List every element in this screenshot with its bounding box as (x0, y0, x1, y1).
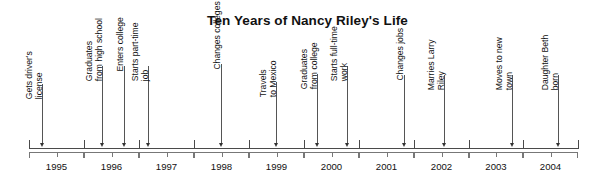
event-label-line2: from high school (94, 18, 104, 81)
event-label: Starts part-timejob (131, 22, 150, 81)
event-label-line2: license (34, 51, 44, 99)
event-label: Travelsto Mexico (259, 60, 278, 97)
timeline-diagram: Ten Years of Nancy Riley's Life Gets dri… (0, 0, 615, 188)
event-arrow-icon (442, 143, 446, 147)
year-bracket-nub (442, 153, 443, 157)
year-bracket-nub (167, 153, 168, 157)
event-label: Enters college (116, 17, 126, 71)
year-boundary-tick (359, 140, 360, 149)
event-leader-line (221, 64, 222, 144)
year-label: 2003 (469, 161, 523, 172)
year-boundary-tick (304, 140, 305, 149)
event-label-line1: Starts part-time (130, 22, 140, 81)
year-bracket (359, 152, 414, 158)
event-label-line1: Daughter Beth (540, 35, 550, 90)
event-label-line1: Changes colleges (212, 1, 222, 69)
year-label: 1999 (249, 161, 304, 172)
event-label-line1: Starts full-time (329, 26, 339, 81)
event-arrow-icon (402, 143, 406, 147)
year-boundary-tick (578, 140, 579, 149)
year-bracket-nub (387, 153, 388, 157)
event-label-line1: Enters college (115, 17, 125, 71)
year-bracket-nub (222, 153, 223, 157)
event-arrow-icon (219, 143, 223, 147)
year-bracket (249, 152, 304, 158)
year-boundary-tick (84, 140, 85, 149)
event-label-line2: town (504, 37, 514, 90)
year-label: 2002 (414, 161, 469, 172)
event-label: Changes jobs (396, 28, 406, 81)
event-label-line1: Changes jobs (395, 28, 405, 81)
year-boundary-tick (523, 140, 524, 149)
event-label-line1: Marries Larry (426, 40, 436, 91)
event-arrow-icon (146, 143, 150, 147)
year-label: 2000 (304, 161, 359, 172)
event-label: Graduatesfrom high school (85, 18, 104, 81)
event-leader-line (124, 66, 125, 144)
event-arrow-icon (122, 143, 126, 147)
event-label-line2: Riley (436, 40, 446, 91)
event-label-line2: work (339, 26, 349, 81)
event-label: Starts full-timework (330, 26, 349, 81)
year-boundary-tick (469, 140, 470, 149)
event-label-line2: born (550, 35, 560, 90)
year-boundary-tick (29, 140, 30, 149)
event-label-line2: from college (309, 42, 319, 89)
year-bracket-nub (112, 153, 113, 157)
year-bracket-nub (277, 153, 278, 157)
event-label-line1: Gets driver's (24, 51, 34, 99)
year-bracket-nub (496, 153, 497, 157)
event-label: Daughter Bethborn (541, 35, 560, 90)
year-bracket (304, 152, 359, 158)
event-arrow-icon (510, 143, 514, 147)
year-bracket-nub (332, 153, 333, 157)
year-label: 1998 (194, 161, 249, 172)
event-leader-line (404, 75, 405, 144)
event-arrow-icon (315, 143, 319, 147)
event-label: Changes colleges (213, 1, 223, 69)
year-bracket (523, 152, 578, 158)
year-bracket (414, 152, 469, 158)
year-label: 1996 (84, 161, 139, 172)
event-label-line2: job (140, 22, 150, 81)
year-boundary-tick (249, 140, 250, 149)
year-bracket (29, 152, 84, 158)
year-bracket (84, 152, 139, 158)
year-label: 2004 (523, 161, 578, 172)
event-label-line1: Moves to new (494, 37, 504, 90)
year-label: 1997 (139, 161, 194, 172)
year-bracket (194, 152, 249, 158)
event-label-line2: to Mexico (268, 60, 278, 97)
year-bracket-nub (551, 153, 552, 157)
year-boundary-tick (139, 140, 140, 149)
event-label-line1: Graduates (299, 49, 309, 89)
year-bracket (139, 152, 194, 158)
event-label-line1: Travels (258, 69, 268, 97)
event-arrow-icon (100, 143, 104, 147)
year-bracket (469, 152, 523, 158)
event-label: Marries LarryRiley (427, 40, 446, 91)
event-label-line1: Graduates (84, 41, 94, 81)
year-boundary-tick (194, 140, 195, 149)
event-arrow-icon (556, 143, 560, 147)
event-arrow-icon (40, 143, 44, 147)
event-label: Moves to newtown (495, 37, 514, 90)
event-label: Graduatesfrom college (300, 42, 319, 89)
year-label: 2001 (359, 161, 414, 172)
event-label: Gets driver'slicense (25, 51, 44, 99)
year-label: 1995 (29, 161, 84, 172)
year-bracket-nub (57, 153, 58, 157)
event-arrow-icon (274, 143, 278, 147)
event-arrow-icon (345, 143, 349, 147)
year-boundary-tick (414, 140, 415, 149)
